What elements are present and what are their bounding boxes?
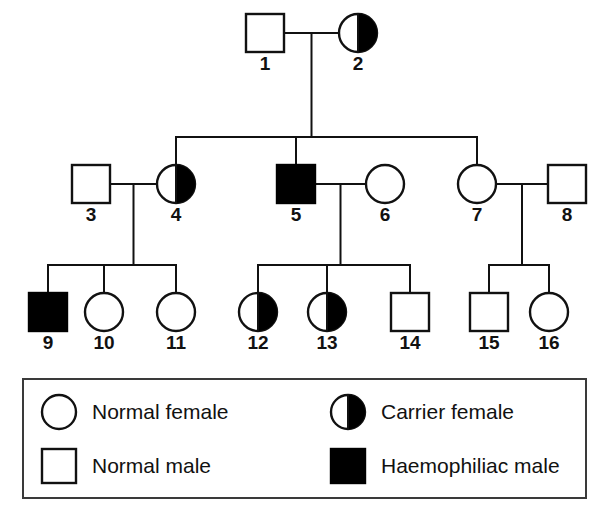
legend-label-square-solid: Haemophiliac male	[381, 454, 560, 477]
individual-label-1: 1	[260, 53, 271, 74]
individual-label-15: 15	[478, 332, 500, 353]
individual-label-7: 7	[472, 204, 483, 225]
pedigree-chart: 12345678910111213141516 Normal femaleCar…	[0, 0, 608, 517]
individual-label-11: 11	[166, 332, 187, 353]
individual-label-5: 5	[291, 204, 302, 225]
individual-label-4: 4	[171, 204, 182, 225]
individual-6-normal-female	[366, 165, 404, 203]
individual-12-carrier-female	[239, 293, 277, 331]
individual-10-normal-female	[85, 293, 123, 331]
individual-label-2: 2	[353, 53, 364, 74]
individual-label-12: 12	[247, 332, 268, 353]
legend-border	[23, 379, 586, 498]
connector-lines	[48, 33, 549, 293]
legend-symbol-circle-open	[42, 395, 76, 429]
individual-label-16: 16	[538, 332, 559, 353]
legend-symbol-square-open	[42, 449, 76, 483]
legend-symbol-circle-half	[331, 395, 365, 429]
individual-symbols	[29, 14, 586, 331]
legend-label-circle-open: Normal female	[92, 400, 229, 423]
individual-11-normal-female	[157, 293, 195, 331]
individual-4-carrier-female	[157, 165, 195, 203]
individual-label-3: 3	[86, 204, 97, 225]
individual-15-normal-male	[470, 293, 508, 331]
individual-label-8: 8	[562, 204, 573, 225]
legend-label-square-open: Normal male	[92, 454, 211, 477]
individual-label-6: 6	[380, 204, 391, 225]
individual-3-normal-male	[72, 165, 110, 203]
individual-8-normal-male	[548, 165, 586, 203]
individual-label-9: 9	[43, 332, 54, 353]
individual-16-normal-female	[530, 293, 568, 331]
individual-label-10: 10	[93, 332, 114, 353]
individual-9-affected-male	[29, 293, 67, 331]
individual-14-normal-male	[391, 293, 429, 331]
individual-label-14: 14	[399, 332, 421, 353]
individual-7-normal-female	[458, 165, 496, 203]
legend-label-circle-half: Carrier female	[381, 400, 514, 423]
individual-label-13: 13	[316, 332, 337, 353]
legend-symbol-square-solid	[331, 449, 365, 483]
individual-2-carrier-female	[339, 14, 377, 52]
legend-panel: Normal femaleCarrier femaleNormal maleHa…	[23, 379, 586, 498]
pedigree-diagram: 12345678910111213141516 Normal femaleCar…	[0, 0, 608, 517]
individual-13-carrier-female	[308, 293, 346, 331]
individual-1-normal-male	[246, 14, 284, 52]
individual-5-affected-male	[277, 165, 315, 203]
